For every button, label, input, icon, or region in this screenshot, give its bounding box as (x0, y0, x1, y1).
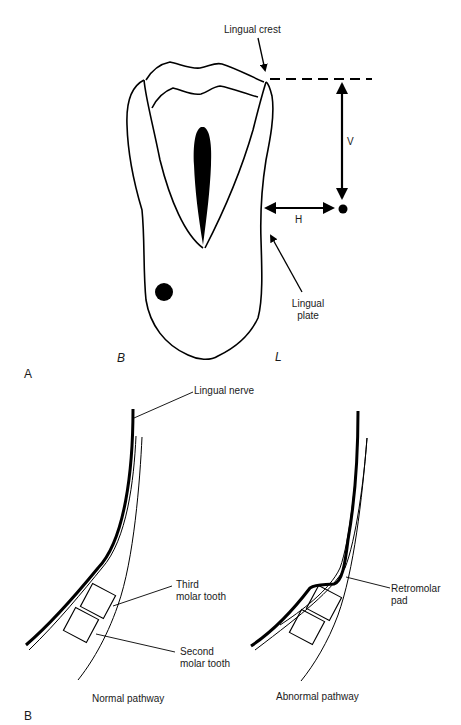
vertical-label: V (347, 136, 354, 148)
canal-dot (155, 283, 173, 301)
third-molar-label: Third molar tooth (176, 579, 226, 603)
lingual-plate-label: Lingual plate (290, 298, 326, 322)
lingual-side-label: L (275, 350, 282, 364)
root-canal (194, 127, 211, 245)
panel-a-letter: A (24, 367, 32, 381)
panel-b-letter: B (24, 709, 32, 723)
lingual-crest-arrow (258, 38, 265, 70)
normal-pathway-caption: Normal pathway (92, 693, 164, 705)
retromolar-pad-label: Retromolar pad (391, 583, 440, 607)
normal-pathway-figure (26, 392, 193, 680)
lingual-plate-arrow (271, 236, 302, 292)
diagram-canvas (0, 0, 461, 725)
lingual-crest-label: Lingual crest (224, 24, 281, 36)
horizontal-label: H (295, 214, 302, 226)
nerve-point (339, 205, 348, 214)
abnormal-pathway-caption: Abnormal pathway (276, 691, 359, 703)
second-molar-label: Second molar tooth (180, 646, 230, 670)
buccal-label: B (117, 351, 125, 365)
lingual-nerve-label: Lingual nerve (194, 385, 254, 397)
abnormal-pathway-figure (251, 411, 390, 681)
